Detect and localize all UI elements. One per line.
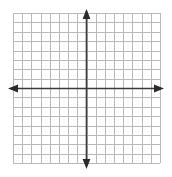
coordinate-grid-figure [0,0,172,177]
coordinate-plane-svg [0,0,172,177]
